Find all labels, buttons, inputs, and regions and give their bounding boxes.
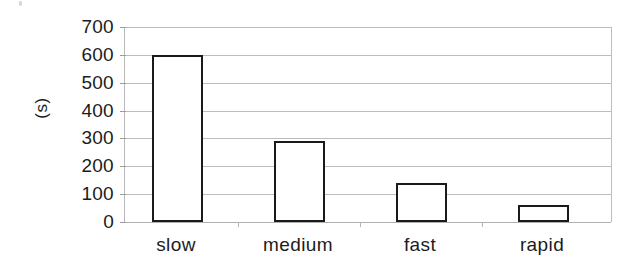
- scan-artifact-speck: [19, 1, 22, 6]
- y-tick-mark: [120, 83, 126, 84]
- y-tick-mark: [120, 222, 126, 223]
- y-axis-title: (s): [32, 88, 52, 128]
- y-tick-label: 100: [81, 184, 114, 203]
- y-tick-label: 0: [103, 212, 114, 231]
- x-category-label: slow: [156, 234, 196, 256]
- bar-slow: [152, 55, 203, 222]
- x-tick-mark: [360, 222, 361, 227]
- y-tick-label: 700: [81, 17, 114, 36]
- y-tick-mark: [120, 111, 126, 112]
- y-tick-mark: [120, 166, 126, 167]
- y-tick-label: 200: [81, 156, 114, 175]
- x-axis-category-labels: slowmediumfastrapid: [124, 234, 612, 264]
- plot-area: [124, 27, 612, 222]
- bar-rapid: [518, 205, 569, 222]
- y-tick-label: 400: [81, 101, 114, 120]
- y-tick-mark: [120, 194, 126, 195]
- axis-baseline: [125, 222, 611, 223]
- x-category-label: fast: [404, 234, 436, 256]
- y-tick-mark: [120, 55, 126, 56]
- x-category-label: medium: [263, 234, 333, 256]
- bar-chart: (s) 0100200300400500600700 slowmediumfas…: [0, 0, 638, 273]
- y-tick-label: 500: [81, 73, 114, 92]
- x-tick-mark: [482, 222, 483, 227]
- y-tick-mark: [120, 27, 126, 28]
- gridline: [125, 27, 611, 28]
- bar-medium: [274, 141, 325, 222]
- y-axis-tick-labels: 0100200300400500600700: [58, 0, 120, 273]
- x-category-label: rapid: [520, 234, 564, 256]
- x-tick-mark: [238, 222, 239, 227]
- y-tick-label: 600: [81, 45, 114, 64]
- bar-fast: [396, 183, 447, 222]
- y-tick-mark: [120, 138, 126, 139]
- y-tick-label: 300: [81, 128, 114, 147]
